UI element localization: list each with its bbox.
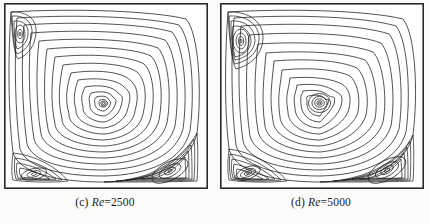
caption-d-prefix: (d) bbox=[291, 196, 305, 208]
figure-root: (c) Re=2500 (d) Re=5000 bbox=[0, 0, 429, 224]
caption-row: (c) Re=2500 (d) Re=5000 bbox=[0, 196, 429, 218]
streamline-plot-panel-c bbox=[4, 3, 208, 189]
caption-c-value: =2500 bbox=[104, 196, 135, 208]
caption-d-symbol: Re bbox=[308, 196, 321, 208]
caption-c-symbol: Re bbox=[92, 196, 105, 208]
caption-d-value: =5000 bbox=[321, 196, 352, 208]
streamline-canvas-d bbox=[220, 3, 424, 189]
caption-panel-c: (c) Re=2500 bbox=[2, 196, 208, 208]
streamline-plot-panel-d bbox=[220, 3, 424, 189]
streamline-canvas-c bbox=[4, 3, 208, 189]
caption-c-prefix: (c) bbox=[75, 196, 88, 208]
caption-panel-d: (d) Re=5000 bbox=[218, 196, 424, 208]
